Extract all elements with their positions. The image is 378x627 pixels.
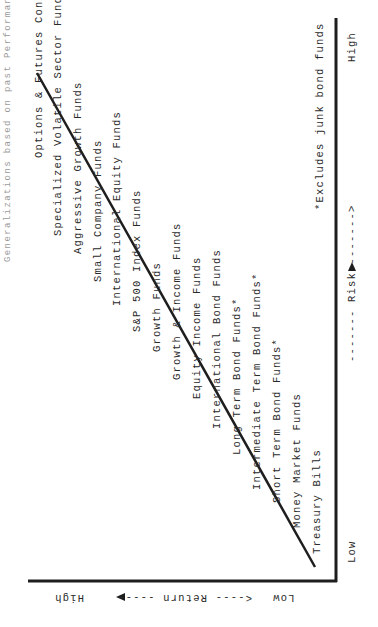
- label-growth-income: Growth & Income Funds: [171, 222, 183, 380]
- return-axis-label: <---- Return -----: [117, 592, 252, 604]
- label-aggressive-growth: Aggressive Growth Funds: [72, 81, 84, 254]
- risk-high-label: High: [346, 32, 358, 62]
- label-options-futures: Options & Futures Contracts: [33, 0, 45, 158]
- return-high-label: High: [54, 592, 84, 604]
- label-sp500-index: S&P 500 Index Funds: [131, 189, 143, 332]
- label-short-term-bond: Short Term Bond Funds*: [271, 338, 283, 503]
- label-growth: Growth Funds: [151, 262, 163, 352]
- label-international-equity: International Equity Funds: [111, 111, 123, 306]
- risk-axis-label: ------- Risk ------->: [346, 204, 358, 362]
- risk-low-label: Low: [346, 540, 358, 563]
- label-small-company: Small Company Funds: [92, 139, 104, 282]
- footnote: *Excludes junk bond funds: [314, 22, 326, 210]
- label-treasury-bills: Treasury Bills: [311, 449, 323, 554]
- label-equity-income: Equity Income Funds: [191, 256, 203, 399]
- label-specialized-sector: Specialized Volatile Sector Funds: [52, 0, 64, 236]
- label-intermediate-term-bond: Intermediate Term Bond Funds*: [251, 272, 263, 490]
- return-low-label: Low: [272, 592, 295, 604]
- label-money-market: Money Market Funds: [291, 393, 303, 528]
- label-international-bond: International Bond Funds: [211, 249, 223, 429]
- label-long-term-bond: Long Term Bond Funds*: [231, 297, 243, 455]
